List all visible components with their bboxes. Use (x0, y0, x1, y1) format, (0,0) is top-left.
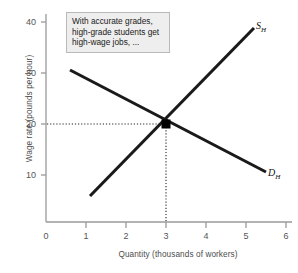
x-tick-label-4: 4 (198, 231, 214, 241)
x-tick-label-5: 5 (238, 231, 254, 241)
x-tick-label-0: 0 (38, 231, 54, 241)
x-axis-title: Quantity (thousands of workers) (0, 250, 298, 259)
annotation-line-3: high-wage jobs, ... (72, 37, 164, 48)
supply-demand-chart: 40 30 20 10 0 1 2 3 4 5 6 Wage rate (pou… (0, 0, 298, 273)
supply-curve-label-subscript: H (261, 26, 266, 34)
supply-curve (90, 28, 254, 196)
equilibrium-point-marker (162, 120, 171, 129)
x-tick-label-2: 2 (118, 231, 134, 241)
demand-curve-label: DH (268, 167, 280, 181)
y-axis-title: Wage rate (pounds per hour) (25, 24, 34, 194)
x-axis-title-text: Quantity (thousands of workers) (118, 250, 237, 259)
annotation-callout: With accurate grades, high-grade student… (66, 12, 170, 53)
x-tick-label-6: 6 (278, 231, 294, 241)
x-tick-label-1: 1 (78, 231, 94, 241)
annotation-line-1: With accurate grades, (72, 16, 164, 27)
demand-curve-label-subscript: H (275, 173, 280, 181)
x-tick-label-3: 3 (158, 231, 174, 241)
annotation-line-2: high-grade students get (72, 27, 164, 38)
supply-curve-label: SH (256, 20, 266, 34)
